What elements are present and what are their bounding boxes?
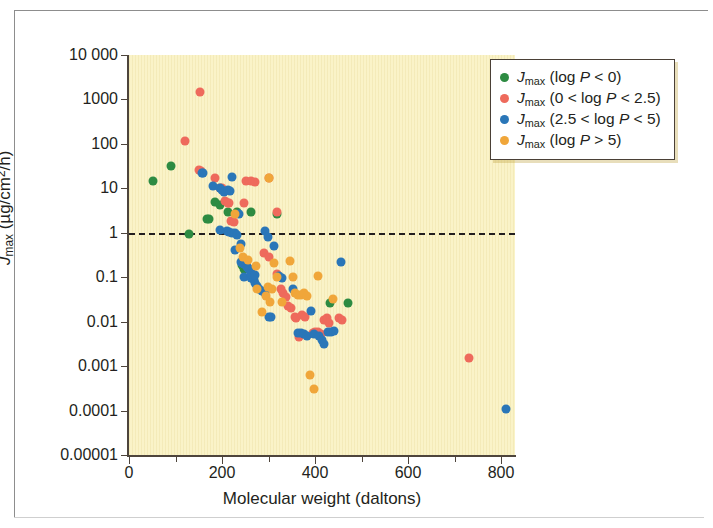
x-axis-line — [129, 455, 516, 457]
data-point — [264, 174, 273, 183]
y-tick-label-10000: 10 000 — [69, 46, 118, 64]
data-point — [224, 198, 233, 207]
legend-item-2[interactable]: Jmax (2.5 < log P < 5) — [500, 109, 661, 130]
legend-symbol: J — [517, 110, 525, 127]
y-tick-0.00001 — [121, 455, 128, 456]
legend-swatch-icon — [500, 136, 509, 145]
y-tick-label-0.001: 0.001 — [78, 357, 118, 375]
y-axis-title-symbol: J — [0, 257, 14, 266]
data-point — [232, 230, 241, 239]
data-point — [252, 261, 261, 270]
legend-item-3[interactable]: Jmax (log P > 5) — [500, 130, 661, 151]
y-axis-title-superscript: 2 — [0, 170, 8, 177]
data-point — [313, 272, 322, 281]
y-tick-label-1: 1 — [109, 224, 118, 242]
y-tick-0.0001 — [121, 411, 128, 412]
y-tick-label-0.01: 0.01 — [87, 313, 118, 331]
data-point — [328, 294, 337, 303]
data-point — [253, 284, 262, 293]
y-tick-0.01 — [121, 322, 128, 323]
data-point — [302, 291, 311, 300]
y-tick-0.001 — [121, 366, 128, 367]
x-tick-400 — [315, 457, 316, 464]
data-point — [231, 210, 240, 219]
y-tick-label-0.0001: 0.0001 — [69, 402, 118, 420]
y-axis-line — [127, 55, 129, 457]
legend-symbol: J — [517, 68, 525, 85]
legend-rows: Jmax (log P < 0)Jmax (0 < log P < 2.5)Jm… — [500, 67, 661, 151]
legend-swatch-icon — [500, 94, 509, 103]
y-tick-label-0.00001: 0.00001 — [60, 446, 118, 464]
data-point — [246, 208, 255, 217]
y-tick-100 — [121, 144, 128, 145]
legend-symbol-subscript: max — [525, 117, 546, 129]
y-axis-title-units-a: (µg/cm — [0, 177, 14, 234]
x-tick-minor-500 — [362, 457, 363, 462]
data-point — [306, 371, 315, 380]
data-point — [465, 354, 474, 363]
x-axis-title: Molecular weight (daltons) — [129, 489, 515, 509]
legend-item-0[interactable]: Jmax (log P < 0) — [500, 67, 661, 88]
data-point — [501, 404, 510, 413]
data-point — [270, 242, 279, 251]
data-point — [199, 169, 208, 178]
x-tick-label-600: 600 — [378, 464, 438, 482]
legend-item-label: Jmax (2.5 < log P < 5) — [517, 109, 661, 130]
data-point — [267, 312, 276, 321]
y-axis-title-units-b: /h) — [0, 151, 14, 171]
x-tick-minor-700 — [455, 457, 456, 462]
data-point — [288, 273, 297, 282]
data-point — [337, 258, 346, 267]
plot-area — [129, 55, 515, 455]
legend-item-label: Jmax (log P < 0) — [517, 67, 622, 88]
legend-condition: (log P > 5) — [545, 131, 621, 148]
data-point — [320, 339, 329, 348]
data-point — [195, 87, 204, 96]
x-tick-minor-300 — [269, 457, 270, 462]
data-point — [244, 255, 253, 264]
data-point — [337, 315, 346, 324]
y-tick-0.1 — [121, 277, 128, 278]
y-tick-label-100: 100 — [91, 135, 118, 153]
figure-border-top — [14, 10, 708, 11]
data-point — [204, 215, 213, 224]
x-tick-200 — [222, 457, 223, 464]
x-tick-minor-100 — [176, 457, 177, 462]
data-point — [310, 385, 319, 394]
legend-item-label: Jmax (log P > 5) — [517, 130, 622, 151]
figure-container: 0200400600800 10 00010001001010.10.010.0… — [0, 0, 713, 528]
legend-symbol: J — [517, 131, 525, 148]
data-point — [272, 273, 281, 282]
legend-symbol: J — [517, 89, 525, 106]
legend-box: Jmax (log P < 0)Jmax (0 < log P < 2.5)Jm… — [490, 59, 675, 160]
y-tick-10000 — [121, 55, 128, 56]
x-tick-800 — [501, 457, 502, 464]
legend-symbol-subscript: max — [525, 138, 546, 150]
data-point — [278, 298, 287, 307]
legend-item-label: Jmax (0 < log P < 2.5) — [517, 88, 661, 109]
y-tick-label-1000: 1000 — [82, 90, 118, 108]
legend-symbol-subscript: max — [525, 75, 546, 87]
y-tick-1 — [121, 233, 128, 234]
x-tick-label-800: 800 — [471, 464, 531, 482]
plot-paper-texture — [129, 55, 515, 455]
data-point — [229, 217, 238, 226]
data-point — [258, 308, 267, 317]
figure-border-bottom — [14, 517, 704, 518]
data-point — [270, 258, 279, 267]
data-point — [343, 299, 352, 308]
y-tick-1000 — [121, 99, 128, 100]
data-point — [250, 271, 259, 280]
data-point — [184, 230, 193, 239]
data-point — [228, 172, 237, 181]
data-point — [240, 198, 249, 207]
x-tick-0 — [129, 457, 130, 464]
y-tick-label-10: 10 — [100, 179, 118, 197]
y-axis-title: Jmax (µg/cm2/h) — [0, 151, 16, 265]
data-point — [268, 284, 277, 293]
x-tick-label-0: 0 — [99, 464, 159, 482]
legend-item-1[interactable]: Jmax (0 < log P < 2.5) — [500, 88, 661, 109]
y-tick-label-0.1: 0.1 — [96, 268, 118, 286]
data-point — [329, 326, 338, 335]
legend-symbol-subscript: max — [525, 96, 546, 108]
